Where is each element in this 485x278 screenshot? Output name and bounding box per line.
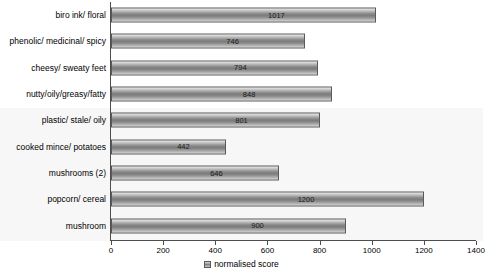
- x-axis-tick-label: 1200: [415, 246, 433, 256]
- x-axis-tick-mark: [320, 241, 321, 245]
- x-axis-line: [110, 240, 476, 241]
- x-axis-tick-label: 0: [109, 246, 113, 256]
- bar-row: nutty/oily/greasy/fatty848: [0, 81, 483, 107]
- bar-row: popcorn/ cereal1200: [0, 186, 483, 212]
- x-axis-tick-label: 600: [261, 246, 274, 256]
- bar-value-label: 1200: [298, 195, 315, 204]
- bar-value-label: 1017: [268, 11, 285, 20]
- bar-value-label: 900: [251, 221, 264, 230]
- bar-normalised-score: 801: [111, 113, 320, 128]
- x-axis-tick-label: 400: [209, 246, 222, 256]
- bar-normalised-score: 794: [111, 60, 318, 75]
- category-label: popcorn/ cereal: [47, 194, 106, 205]
- x-axis-tick-mark: [476, 241, 477, 245]
- x-axis-tick-mark: [163, 241, 164, 245]
- category-label: mushroom: [66, 220, 106, 231]
- x-axis-tick-mark: [424, 241, 425, 245]
- legend-label-normalised-score: normalised score: [214, 259, 279, 270]
- x-axis-tick-label: 800: [313, 246, 326, 256]
- legend-swatch-normalised-score: [204, 261, 211, 268]
- bar-value-label: 801: [235, 116, 248, 125]
- chart-legend: normalised score: [0, 259, 483, 271]
- bar-normalised-score: 1200: [111, 192, 424, 207]
- category-label: nutty/oily/greasy/fatty: [26, 89, 106, 100]
- x-axis-tick-mark: [267, 241, 268, 245]
- category-label: cooked mince/ potatoes: [16, 141, 106, 152]
- bar-row: cooked mince/ potatoes442: [0, 134, 483, 160]
- bar-row: biro ink/ floral1017: [0, 2, 483, 28]
- bar-row: plastic/ stale/ oily801: [0, 107, 483, 133]
- category-label: mushrooms (2): [49, 168, 106, 179]
- bar-normalised-score: 848: [111, 87, 332, 102]
- category-label: phenolic/ medicinal/ spicy: [10, 36, 106, 47]
- category-label: cheesy/ sweaty feet: [31, 62, 106, 73]
- category-label: biro ink/ floral: [55, 10, 106, 21]
- bar-normalised-score: 746: [111, 34, 305, 49]
- bar-row: phenolic/ medicinal/ spicy746: [0, 28, 483, 54]
- bar-row: cheesy/ sweaty feet794: [0, 55, 483, 81]
- bar-normalised-score: 1017: [111, 8, 376, 23]
- bar-normalised-score: 646: [111, 166, 279, 181]
- category-label: plastic/ stale/ oily: [42, 115, 106, 126]
- x-axis-tick-label: 200: [156, 246, 169, 256]
- x-axis-tick-mark: [215, 241, 216, 245]
- x-axis-tick-label: 1400: [467, 246, 485, 256]
- x-axis-tick-label: 1000: [363, 246, 381, 256]
- bar-value-label: 746: [226, 37, 239, 46]
- bar-value-label: 848: [243, 90, 256, 99]
- bar-normalised-score: 442: [111, 139, 226, 154]
- bar-value-label: 442: [177, 142, 190, 151]
- bar-row: mushroom900: [0, 213, 483, 239]
- bar-value-label: 646: [210, 169, 223, 178]
- bar-normalised-score: 900: [111, 218, 346, 233]
- x-axis-tick-mark: [111, 241, 112, 245]
- bar-value-label: 794: [234, 63, 247, 72]
- x-axis-tick-mark: [372, 241, 373, 245]
- bar-row: mushrooms (2)646: [0, 160, 483, 186]
